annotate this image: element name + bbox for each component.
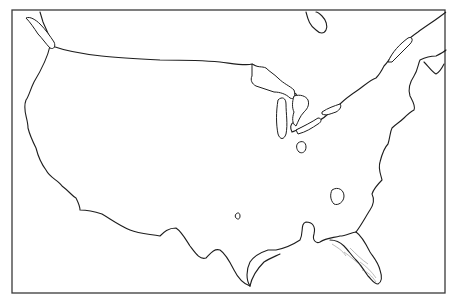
lake-superior [251, 64, 295, 99]
gulf-coast [247, 222, 356, 286]
lake-ontario [322, 104, 341, 115]
us-outline-map [0, 0, 463, 301]
lake-huron [293, 95, 309, 126]
hudson-bay-fragment [306, 12, 327, 33]
west-coast-and-southern-border [25, 12, 250, 286]
nova-scotia-coast [424, 62, 444, 74]
st-lawrence-gulf [388, 37, 412, 62]
inland-oval-lake [297, 142, 306, 153]
lake-erie [296, 118, 321, 134]
small-inland-lake [235, 213, 240, 219]
lake-michigan [277, 98, 287, 139]
puget-sound-island [26, 17, 55, 48]
canada-border [52, 12, 446, 132]
east-coast [356, 50, 446, 232]
carolina-oval [331, 188, 344, 204]
map-canvas [0, 0, 463, 301]
florida-peninsula [330, 232, 381, 284]
gulf-coast-bay [250, 254, 280, 286]
